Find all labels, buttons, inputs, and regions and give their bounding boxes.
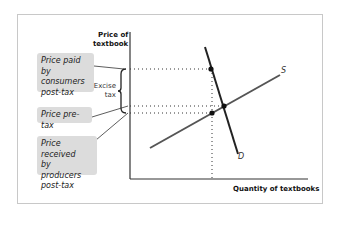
excise-tax-label: Excise tax (88, 82, 116, 100)
consumer-price-label: Price paid by consumers post-tax (37, 53, 94, 92)
excise-tax-brace (118, 69, 126, 113)
supply-label: S (281, 66, 286, 75)
producer-price-line2: by producers (41, 160, 93, 181)
consumer-price-line1: Price paid by (41, 56, 90, 77)
consumer-leader (94, 66, 124, 69)
excise-line1: Excise (88, 82, 116, 91)
equilibrium-point (221, 103, 226, 108)
consumer-price-line2: consumers (41, 77, 90, 88)
excise-line2: tax (88, 91, 116, 100)
demand-label: D (238, 152, 244, 161)
supply-curve (150, 75, 280, 148)
consumer-price-line3: post-tax (41, 88, 90, 99)
producer-leader (96, 113, 128, 140)
y-axis-label: Price of textbook (93, 31, 128, 49)
pretax-price-label: Price pre-tax (37, 107, 92, 123)
y-axis-label-line2: textbook (93, 40, 128, 49)
y-axis-label-line1: Price of (93, 31, 128, 40)
producer-price-line3: post-tax (41, 181, 93, 192)
x-axis-label: Quantity of textbooks (233, 185, 319, 194)
producer-price-label: Price received by producers post-tax (37, 136, 97, 175)
consumer-price-point (208, 66, 213, 71)
producer-price-point (209, 110, 214, 115)
producer-price-line1: Price received (41, 139, 93, 160)
